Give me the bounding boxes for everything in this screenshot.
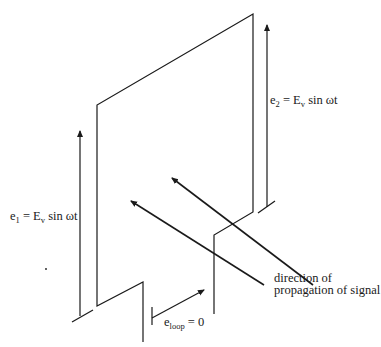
signal-propagation-arrows [131, 178, 313, 285]
loop-antenna-plate [97, 14, 253, 342]
eloop-label: eloop = 0 [164, 315, 204, 331]
voltage-arrow-e2 [258, 25, 275, 213]
loop-antenna-diagram: e2 = Ev sin ωt e1 = Ev sin ωt eloop = 0 … [0, 0, 381, 347]
eloop-arrow-shaft [152, 290, 204, 318]
dot-mark [45, 268, 47, 270]
e1-base-tick [72, 310, 93, 322]
loop-left-side [97, 14, 253, 342]
e1-label: e1 = Ev sin ωt [10, 209, 78, 225]
propagation-arrow-upper [172, 178, 313, 285]
voltage-arrow-e1 [72, 131, 93, 322]
direction-label-line2: propagation of signal [274, 283, 381, 297]
propagation-arrow-lower [131, 201, 264, 285]
e2-label: e2 = Ev sin ωt [270, 93, 338, 109]
